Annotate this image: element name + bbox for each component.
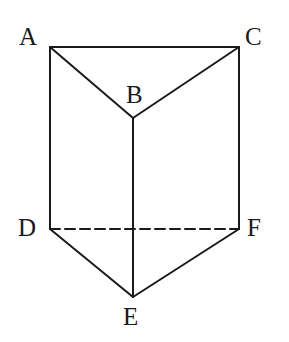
edge-AB xyxy=(50,47,133,118)
triangular-prism-drawing xyxy=(0,0,289,342)
edge-DE xyxy=(50,229,133,297)
vertex-label-f: F xyxy=(247,215,261,240)
vertex-label-e: E xyxy=(123,304,138,329)
vertex-label-b: B xyxy=(126,82,143,107)
edge-FE xyxy=(133,229,239,297)
vertex-label-a: A xyxy=(19,24,37,49)
edges-group xyxy=(50,47,239,297)
edge-CB xyxy=(133,47,239,118)
figure-canvas: ABCDEF xyxy=(0,0,289,342)
vertex-label-d: D xyxy=(18,215,36,240)
vertex-label-c: C xyxy=(245,24,262,49)
